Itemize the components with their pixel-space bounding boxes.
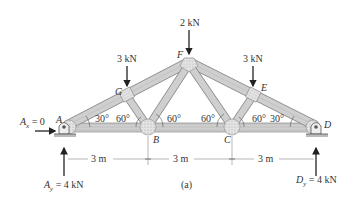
- angle-label-2: 60°: [116, 114, 130, 124]
- dimension-label-2: 3 m: [173, 154, 188, 164]
- reaction-label-ay: Ay = 4 kN: [44, 180, 84, 193]
- angle-label-4: 60°: [201, 114, 215, 124]
- load-label-f: 2 kN: [180, 18, 200, 28]
- dimension-label-3: 3 m: [258, 154, 273, 164]
- joint-label-b: B: [153, 135, 159, 145]
- joint-label-c: C: [224, 135, 231, 145]
- joint-label-a: A: [56, 115, 62, 125]
- load-label-e: 3 kN: [243, 54, 263, 64]
- joint-label-e: E: [261, 83, 267, 93]
- web-members: [127, 64, 253, 127]
- truss-figure: A B C D E F G 3 kN 2 kN 3 kN Ax = 0 Ay =…: [0, 0, 357, 202]
- angle-label-1: 30°: [95, 114, 109, 124]
- joint-label-d: D: [324, 120, 331, 130]
- reaction-label-ax: Ax = 0: [20, 117, 45, 130]
- angle-label-5: 60°: [252, 114, 266, 124]
- bottom-chord: [66, 123, 316, 132]
- joint-label-f: F: [177, 50, 183, 60]
- angle-label-6: 30°: [270, 114, 284, 124]
- joint-label-g: G: [115, 87, 122, 97]
- reaction-label-dy: Dy = 4 kN: [296, 175, 337, 188]
- dimension-label-1: 3 m: [91, 154, 106, 164]
- figure-caption: (a): [181, 180, 192, 190]
- angle-label-3: 60°: [167, 114, 181, 124]
- load-label-g: 3 kN: [117, 54, 137, 64]
